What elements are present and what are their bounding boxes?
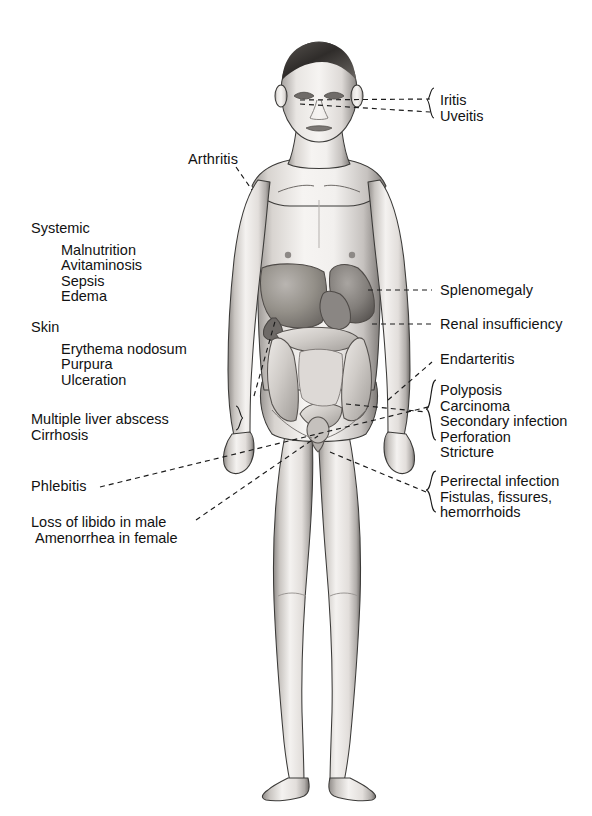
label-carcinoma: Carcinoma [440,399,567,415]
label-amenorrhea: Amenorrhea in female [31,531,178,547]
label-splenomegaly: Splenomegaly [440,283,533,299]
label-secondary-infection: Secondary infection [440,414,567,430]
label-group-systemic: Systemic Malnutrition Avitaminosis Sepsi… [31,221,142,305]
label-perforation: Perforation [440,430,567,446]
label-group-skin: Skin Erythema nodosum Purpura Ulceration [31,320,187,388]
label-perirectal-infection: Perirectal infection [440,474,559,490]
leader-liver [254,318,276,396]
label-cirrhosis: Cirrhosis [31,428,169,444]
label-group-libido: Loss of libido in male Amenorrhea in fem… [31,515,178,546]
label-edema: Edema [31,289,142,305]
label-group-perirectal: Perirectal infection Fistulas, fissures,… [440,474,559,521]
label-malnutrition: Malnutrition [31,243,142,259]
label-fistulas-fissures: Fistulas, fissures, [440,490,559,506]
label-hemorrhoids: hemorrhoids [440,505,559,521]
leader-perirectal [330,452,426,492]
brace-iritis [427,88,434,118]
label-systemic-header: Systemic [31,221,142,237]
brace-bowel [426,380,436,440]
label-renal-insufficiency: Renal insufficiency [440,317,563,333]
leader-endarteritis [388,362,432,400]
brace-liver [236,406,243,430]
label-loss-of-libido: Loss of libido in male [31,515,178,531]
label-group-eye: Iritis Uveitis [440,93,484,124]
brace-perirectal [426,471,436,512]
label-erythema-nodosum: Erythema nodosum [31,342,187,358]
leader-bowel [346,404,426,412]
leader-iritis [300,99,430,100]
label-group-bowel: Polyposis Carcinoma Secondary infection … [440,383,567,461]
illustration-canvas: Iritis Uveitis Arthritis Systemic Malnut… [0,0,592,816]
label-arthritis: Arthritis [188,152,238,168]
label-purpura: Purpura [31,357,187,373]
label-sepsis: Sepsis [31,274,142,290]
leader-arthritis [236,167,252,190]
label-polyposis: Polyposis [440,383,567,399]
label-endarteritis: Endarteritis [440,352,515,368]
leader-libido [196,436,318,520]
label-group-liver: Multiple liver abscess Cirrhosis [31,412,169,443]
label-stricture: Stricture [440,445,567,461]
label-avitaminosis: Avitaminosis [31,258,142,274]
label-multiple-liver-abscess: Multiple liver abscess [31,412,169,428]
label-iritis: Iritis [440,93,484,109]
label-uveitis: Uveitis [440,109,484,125]
leader-uveitis [300,104,430,112]
label-ulceration: Ulceration [31,373,187,389]
label-phlebitis: Phlebitis [31,479,87,495]
label-skin-header: Skin [31,320,187,336]
